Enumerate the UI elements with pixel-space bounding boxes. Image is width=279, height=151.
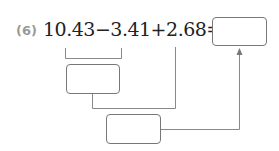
connector-step2: [93, 47, 176, 109]
connector-final: [161, 52, 240, 130]
bracket-step1: [66, 48, 122, 59]
connector-lines: [0, 0, 279, 151]
arrow-up-icon: [237, 48, 243, 55]
